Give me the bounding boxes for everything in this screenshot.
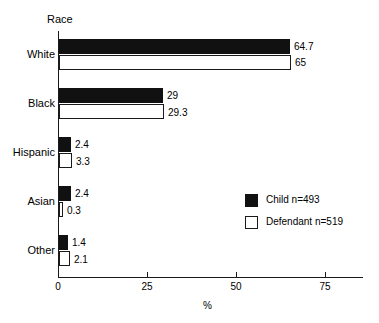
- x-tick-label-0: 0: [55, 281, 61, 293]
- bar-value-child-white: 64.7: [294, 41, 313, 53]
- category-label-white: White: [27, 48, 55, 61]
- legend-label-defendant: Defendant n=519: [266, 215, 343, 229]
- legend-label-child: Child n=493: [266, 193, 320, 207]
- category-label-asian: Asian: [27, 195, 55, 208]
- bar-defendant-other: [59, 251, 70, 266]
- category-label-other: Other: [27, 244, 55, 257]
- bar-defendant-black: [59, 104, 164, 119]
- x-tick-label-50: 50: [230, 281, 241, 293]
- bar-child-black: [59, 88, 163, 103]
- legend-swatch-child-icon: [245, 194, 258, 207]
- x-tick-mark-0: [58, 272, 59, 278]
- category-label-hispanic: Hispanic: [13, 146, 55, 159]
- bar-value-child-asian: 2.4: [75, 188, 89, 200]
- bar-value-child-hispanic: 2.4: [75, 139, 89, 151]
- x-axis-title-wrapper: %: [0, 300, 379, 312]
- bar-defendant-asian: [59, 202, 63, 217]
- bar-child-other: [59, 235, 68, 250]
- legend-swatch-defendant-icon: [245, 216, 258, 229]
- bar-child-white: [59, 39, 290, 54]
- bar-value-child-black: 29: [167, 90, 178, 102]
- x-tick-label-75: 75: [319, 281, 330, 293]
- x-tick-mark-25: [147, 272, 148, 278]
- x-tick-mark-75: [325, 272, 326, 278]
- bar-value-defendant-hispanic: 3.3: [76, 156, 90, 168]
- bar-value-defendant-white: 65: [295, 57, 306, 69]
- bar-value-child-other: 1.4: [72, 237, 86, 249]
- bar-value-defendant-other: 2.1: [74, 254, 88, 266]
- x-tick-label-25: 25: [141, 281, 152, 293]
- category-label-black: Black: [28, 97, 55, 110]
- bar-value-defendant-black: 29.3: [168, 107, 187, 119]
- bar-value-defendant-asian: 0.3: [67, 205, 81, 217]
- bar-defendant-white: [59, 55, 291, 70]
- bar-child-asian: [59, 186, 71, 201]
- x-axis-line: [58, 277, 363, 278]
- x-axis-title: %: [167, 300, 212, 311]
- x-tick-mark-50: [236, 272, 237, 278]
- race-percentage-bar-chart: Race 0 25 50 75 % White 64.7 65 Black 29…: [0, 0, 379, 323]
- y-axis-title: Race: [47, 13, 73, 26]
- bar-child-hispanic: [59, 137, 71, 152]
- bar-defendant-hispanic: [59, 153, 72, 168]
